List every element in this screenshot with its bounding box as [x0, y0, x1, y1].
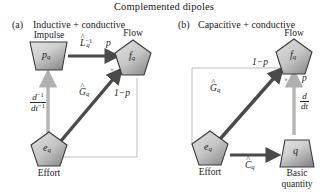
panel-b-label-derivative: d dt: [300, 92, 309, 111]
figure-complemented-dipoles: Complemented dipoles (a) Inductive + con…: [0, 0, 328, 192]
panel-b-label-weight-p: p: [302, 73, 307, 83]
panel-a-arrow-conductance: [55, 71, 120, 148]
panel-b-label-weight-1-p: 1−p: [252, 57, 268, 67]
panel-b-node-basic-quantity: [280, 140, 314, 167]
panel-a-caption-impulse: Impulse: [22, 30, 76, 40]
panel-b-node-flow: [276, 39, 312, 74]
panel-a-label-conductance: ^Gq: [79, 87, 89, 97]
panel-a-label-weight-1-p: 1−p: [114, 88, 130, 98]
panel-a-caption-flow: Flow: [110, 28, 156, 38]
panel-a-label-weight-p: p: [106, 38, 111, 48]
panel-b-caption-basic-line1: Basic: [272, 168, 322, 178]
panel-a-label-integral: d−1 dt−1: [30, 92, 46, 113]
panel-a-graphics: [30, 40, 151, 166]
panel-a-multiplier-mark: ×: [110, 66, 114, 74]
panel-a-label-inductance: ^L−1q: [80, 37, 90, 48]
panel-b-caption-effort: Effort: [184, 167, 236, 177]
panel-a-node-impulse: [30, 42, 67, 70]
panel-b-caption-flow: Flow: [271, 28, 317, 38]
panel-b-multiplier-mark: ×: [284, 76, 288, 84]
panel-a-node-flow: [115, 40, 151, 75]
panel-b-arrow-conductance: [213, 70, 281, 147]
panel-b-label-conductance: ^Gq: [210, 83, 220, 93]
panel-b-caption-basic-line2: quantity: [272, 179, 322, 189]
panel-a-caption-effort: Effort: [22, 168, 76, 178]
panel-b-label-capacitance: ^Cq: [245, 160, 255, 170]
panel-a-node-effort: [31, 132, 67, 166]
